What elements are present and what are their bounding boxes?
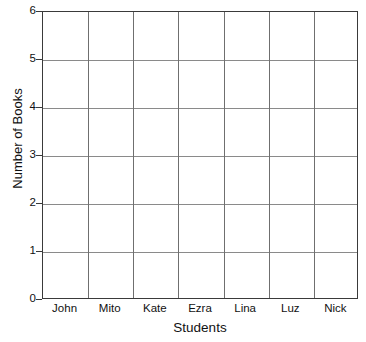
- gridline-vertical: [133, 12, 134, 298]
- x-axis-tick-label-mito: Mito: [87, 301, 132, 315]
- gridline-vertical: [269, 12, 270, 298]
- bar-chart: Number of Books 0123456 JohnMitoKateEzra…: [0, 0, 366, 342]
- x-axis-tick-label-kate: Kate: [132, 301, 177, 315]
- gridline-horizontal: [43, 156, 357, 157]
- y-axis-tick-label: 0: [8, 293, 36, 304]
- y-axis-tick-label: 1: [8, 245, 36, 256]
- gridline-horizontal: [43, 204, 357, 205]
- plot-area: [42, 11, 358, 299]
- y-axis-tick-label: 6: [8, 5, 36, 16]
- x-axis-tick-label-nick: Nick: [313, 301, 358, 315]
- gridline-vertical: [88, 12, 89, 298]
- y-axis-tick-label: 3: [8, 149, 36, 160]
- x-axis-tick-label-ezra: Ezra: [177, 301, 222, 315]
- gridline-vertical: [314, 12, 315, 298]
- gridline-horizontal: [43, 252, 357, 253]
- x-axis-tick-label-luz: Luz: [268, 301, 313, 315]
- x-axis-tick-label-john: John: [42, 301, 87, 315]
- y-axis-tick-mark: [36, 299, 42, 300]
- gridline-vertical: [178, 12, 179, 298]
- x-axis-tick-label-lina: Lina: [223, 301, 268, 315]
- x-axis-title: Students: [42, 320, 358, 335]
- y-axis-tick-label: 5: [8, 53, 36, 64]
- gridline-horizontal: [43, 60, 357, 61]
- chart-title: [0, 0, 366, 1]
- y-axis-ticks: 0123456: [0, 0, 36, 342]
- gridline-horizontal: [43, 108, 357, 109]
- gridline-vertical: [224, 12, 225, 298]
- y-axis-tick-label: 4: [8, 101, 36, 112]
- y-axis-tick-label: 2: [8, 197, 36, 208]
